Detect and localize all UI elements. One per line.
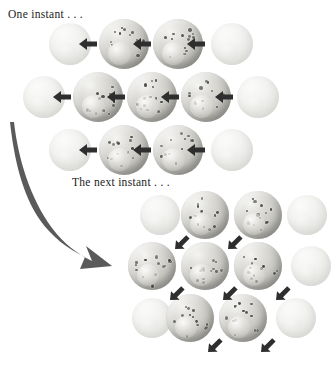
caption-one-instant: One instant . . . — [8, 8, 83, 20]
arrow-down-left-icon — [173, 231, 193, 251]
arrow-down-left-icon — [226, 231, 246, 251]
arrow-down-left-icon — [168, 282, 188, 302]
molecule-sphere-faded — [287, 195, 327, 235]
arrow-down-left-icon — [259, 334, 279, 354]
molecule-sphere-faded — [276, 298, 316, 338]
molecule-sphere-faded — [140, 195, 180, 235]
molecular-motion-figure: One instant . . . The next instant . . . — [0, 0, 335, 368]
curved-arrow-icon — [8, 120, 128, 270]
arrow-down-left-icon — [221, 282, 241, 302]
arrow-down-left-icon — [274, 282, 294, 302]
molecule-sphere-faded — [291, 246, 331, 286]
arrow-down-left-icon — [206, 334, 226, 354]
